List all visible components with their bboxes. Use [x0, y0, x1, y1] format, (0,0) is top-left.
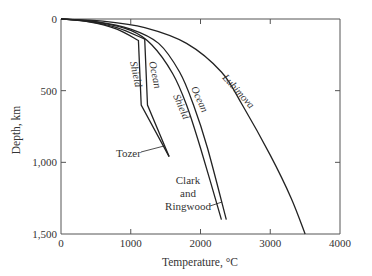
x-tick-label: 3000 [259, 237, 282, 249]
x-tick-label: 0 [58, 237, 64, 249]
tozer-ocean-label: Ocean [147, 60, 163, 89]
x-tick-label: 1000 [120, 237, 143, 249]
tozer-annotation: Tozer [116, 147, 141, 159]
clark-annotation-line1: Clark [176, 174, 201, 186]
y-tick-label: 500 [41, 85, 58, 97]
clark-and-ringwood-shield-curve [61, 19, 221, 220]
tozer-leader [141, 146, 164, 152]
geotherm-chart: 01000200030004000 05001,0001,500 Tempera… [0, 0, 372, 276]
clark-annotation-line3: Ringwood [165, 200, 211, 212]
x-tick-label: 4000 [329, 237, 352, 249]
y-tick-labels: 05001,0001,500 [32, 13, 57, 240]
x-tick-labels: 01000200030004000 [58, 237, 351, 249]
y-tick-label: 0 [52, 13, 58, 25]
lubimova-label: Lubimova [220, 71, 257, 110]
x-tick-label: 2000 [190, 237, 213, 249]
cr-shield-label: Shield [171, 92, 192, 121]
y-tick-label: 1,500 [32, 228, 57, 240]
y-axis-label: Depth, km [10, 106, 23, 155]
clark-annotation-line2: and [180, 187, 196, 199]
clark-and-ringwood-ocean-curve [61, 19, 226, 220]
cr-ocean-label: Ocean [189, 84, 210, 114]
y-tick-label: 1,000 [32, 156, 57, 168]
tozer-shield-label: Shield [128, 60, 144, 89]
x-axis-label: Temperature, °C [162, 256, 238, 269]
